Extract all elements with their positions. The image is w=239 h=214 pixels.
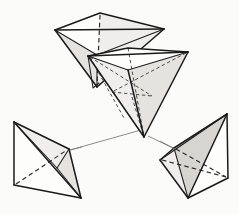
tetra-top-edge-left-to-right xyxy=(55,29,164,30)
geometric-figure-canvas xyxy=(0,0,239,214)
tetra-lower-right-edge-right-to-apex xyxy=(227,114,228,178)
tetrahedra-diagram xyxy=(0,0,239,214)
